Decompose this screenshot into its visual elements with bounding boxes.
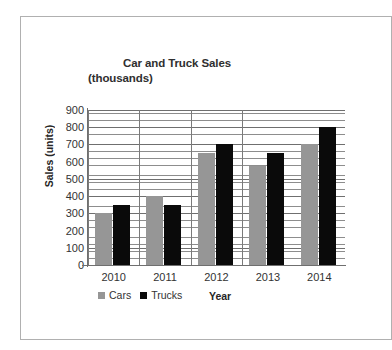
bar-cars-2011[interactable] (146, 196, 163, 265)
chart-title-line1: Car and Truck Sales (123, 57, 231, 69)
bar-cars-2010[interactable] (95, 213, 112, 265)
bar-trucks-2012[interactable] (216, 144, 233, 265)
y-tick-label: 800 (50, 121, 84, 133)
bar-trucks-2014[interactable] (319, 127, 336, 265)
bar-cars-2012[interactable] (198, 153, 215, 265)
bar-group-2011 (139, 110, 190, 265)
bar-cars-2014[interactable] (301, 144, 318, 265)
y-tick-label: 400 (50, 190, 84, 202)
bars-layer (88, 110, 345, 265)
bar-trucks-2011[interactable] (164, 205, 181, 265)
bar-cars-2013[interactable] (249, 166, 266, 265)
y-tick-label: 0 (50, 259, 84, 271)
legend-swatch-trucks-icon (140, 292, 147, 299)
bar-trucks-2010[interactable] (113, 205, 130, 265)
y-tick-label: 900 (50, 104, 84, 116)
legend-label-trucks: Trucks (151, 289, 182, 301)
chart-title-line2: (thousands) (62, 71, 292, 86)
legend-label-cars: Cars (109, 289, 131, 301)
y-tick-label: 600 (50, 156, 84, 168)
x-tick-label-2013: 2013 (242, 271, 293, 283)
y-tick-label: 300 (50, 207, 84, 219)
x-tick-label-2011: 2011 (139, 271, 190, 283)
legend-swatch-cars-icon (98, 292, 105, 299)
legend-item-cars[interactable]: Cars (98, 289, 131, 301)
bar-trucks-2013[interactable] (267, 153, 284, 265)
bar-group-2012 (191, 110, 242, 265)
x-tick-label-2014: 2014 (294, 271, 345, 283)
x-axis-title: Year (209, 290, 231, 302)
x-axis-tick-labels: 2010 2011 2012 2013 2014 (88, 271, 345, 289)
y-axis-tick-labels: 900 800 700 600 500 400 300 200 100 0 (44, 110, 84, 265)
x-tick-label-2010: 2010 (88, 271, 139, 283)
x-tick-label-2012: 2012 (191, 271, 242, 283)
chart-legend: Cars Trucks (98, 289, 182, 301)
y-tick-label: 500 (50, 173, 84, 185)
x-axis-line (82, 265, 346, 266)
chart-title: Car and Truck Sales (thousands) (62, 56, 292, 86)
y-tick-label: 200 (50, 225, 84, 237)
y-tick-label: 700 (50, 138, 84, 150)
bar-group-2014 (294, 110, 345, 265)
legend-item-trucks[interactable]: Trucks (140, 289, 182, 301)
bar-group-2013 (242, 110, 293, 265)
bar-group-2010 (88, 110, 139, 265)
y-tick-label: 100 (50, 242, 84, 254)
